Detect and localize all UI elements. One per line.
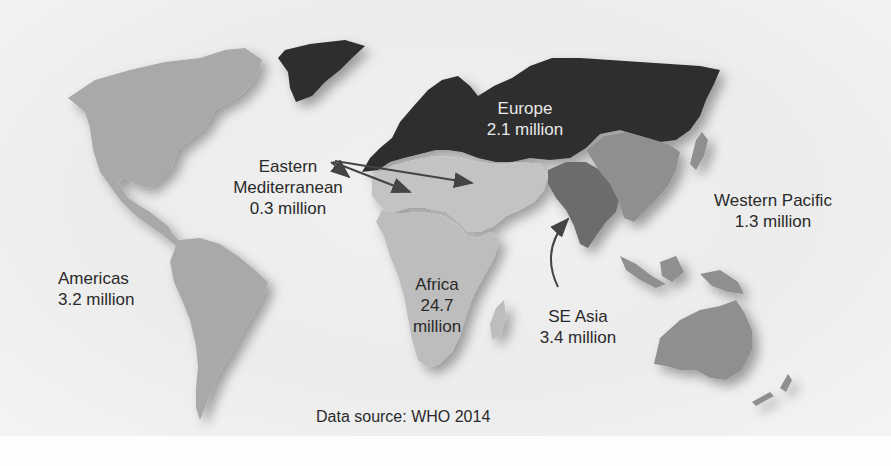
africa-value-line2: million xyxy=(406,316,468,337)
label-americas: Americas 3.2 million xyxy=(58,268,135,310)
region-indonesia xyxy=(620,256,744,294)
data-source-text: Data source: WHO 2014 xyxy=(316,406,490,427)
region-south-america xyxy=(170,238,268,420)
western-pacific-value: 1.3 million xyxy=(698,211,848,232)
se-asia-arrow xyxy=(551,219,568,287)
label-eastern-mediterranean: Eastern Mediterranean 0.3 million xyxy=(222,156,354,219)
africa-name: Africa xyxy=(406,274,468,295)
label-western-pacific: Western Pacific 1.3 million xyxy=(698,190,848,232)
americas-value: 3.2 million xyxy=(58,289,135,310)
world-map-figure: Americas 3.2 million Eastern Mediterrane… xyxy=(0,0,891,466)
region-new-zealand xyxy=(752,374,792,406)
western-pacific-name: Western Pacific xyxy=(698,190,848,211)
eastern-mediterranean-name-line1: Eastern xyxy=(222,156,354,177)
region-madagascar xyxy=(490,300,506,340)
eastern-mediterranean-value: 0.3 million xyxy=(222,198,354,219)
world-map xyxy=(0,0,891,466)
region-japan xyxy=(690,132,708,170)
africa-value-line1: 24.7 xyxy=(406,295,468,316)
label-africa: Africa 24.7 million xyxy=(406,274,468,337)
data-source-caption: Data source: WHO 2014 xyxy=(316,406,490,427)
region-central-america xyxy=(130,206,182,246)
region-australia xyxy=(654,300,752,380)
region-greenland xyxy=(278,40,365,102)
americas-name: Americas xyxy=(58,268,135,289)
se-asia-value: 3.4 million xyxy=(530,327,626,348)
se-asia-name: SE Asia xyxy=(530,306,626,327)
europe-value: 2.1 million xyxy=(470,119,580,140)
label-se-asia: SE Asia 3.4 million xyxy=(530,306,626,348)
eastern-mediterranean-name-line2: Mediterranean xyxy=(222,177,354,198)
europe-name: Europe xyxy=(470,98,580,119)
label-europe: Europe 2.1 million xyxy=(470,98,580,140)
